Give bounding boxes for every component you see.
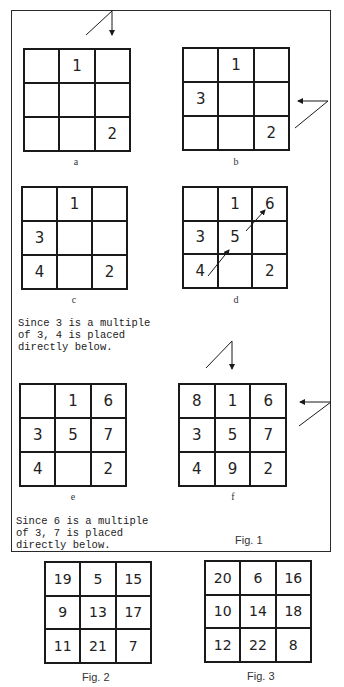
arrows-layer — [0, 0, 344, 687]
diagonal-arrow-icon — [208, 250, 229, 276]
wrap-arrow-down-icon — [206, 341, 232, 369]
diagonal-arrow-icon — [246, 210, 265, 231]
wrap-arrow-left-icon — [299, 402, 331, 426]
wrap-arrow-left-icon — [295, 101, 328, 128]
wrap-arrow-down-icon — [86, 11, 112, 35]
